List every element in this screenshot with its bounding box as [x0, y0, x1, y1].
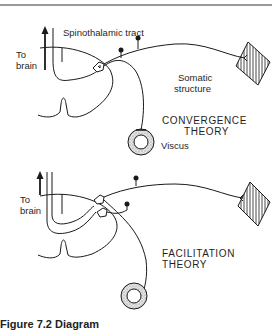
convergence-panel	[38, 26, 270, 155]
spinothalamic-tract-label: Spinothalamic tract	[63, 27, 144, 38]
viscus-label: Viscus	[161, 140, 189, 151]
convergence-theory-title-line1: CONVERGENCE	[162, 115, 247, 126]
somatic-structure-label-line1: Somatic	[178, 72, 212, 83]
to-brain-label-2-line2: brain	[20, 205, 41, 216]
somatic-structure-shape-2	[238, 182, 270, 226]
somatic-structure-label-line2: structure	[174, 83, 211, 94]
facilitation-theory-title-line1: FACILITATION	[162, 248, 235, 259]
to-brain-label-line2: brain	[16, 60, 37, 71]
to-brain-label-line1: To	[16, 49, 26, 60]
to-brain-label-2-line1: To	[20, 194, 30, 205]
facilitation-theory-title-line2: THEORY	[162, 259, 207, 270]
somatic-structure-shape	[236, 42, 270, 85]
figure-caption: Figure 7.2 Diagram	[0, 318, 99, 330]
facilitation-panel	[37, 171, 271, 309]
convergence-theory-title-line2: THEORY	[184, 126, 229, 137]
